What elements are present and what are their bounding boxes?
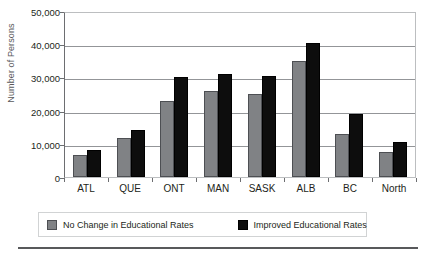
legend-swatch-icon-improved <box>238 220 248 230</box>
bar <box>379 152 393 177</box>
y-axis-tick-label: 50,000 <box>14 7 60 18</box>
x-axis-tick-mark <box>328 178 329 182</box>
legend-entry-no-change: No Change in Educational Rates <box>47 220 194 230</box>
y-axis-tick-label: 20,000 <box>14 106 60 117</box>
y-axis-tick-label: 40,000 <box>14 40 60 51</box>
bar <box>117 138 131 177</box>
bar-group <box>240 13 284 177</box>
bar <box>306 43 320 177</box>
bar <box>87 150 101 177</box>
legend-label-no-change: No Change in Educational Rates <box>63 220 194 230</box>
chart-legend: No Change in Educational Rates Improved … <box>38 212 367 237</box>
bar <box>131 130 145 177</box>
bar-group <box>328 13 372 177</box>
x-axis-category-label: QUE <box>108 183 152 199</box>
x-axis-category-labels: ATLQUEONTMANSASKALBBCNorth <box>64 183 416 199</box>
bar-group <box>65 13 109 177</box>
bar <box>248 94 262 177</box>
bar <box>160 101 174 177</box>
x-axis-tick-mark <box>196 178 197 182</box>
legend-swatch-icon-no-change <box>47 220 57 230</box>
bar <box>73 155 87 177</box>
bar-group <box>196 13 240 177</box>
bar-chart-figure: Number of Persons 010,00020,00030,00040,… <box>0 0 435 261</box>
bar-group <box>109 13 153 177</box>
x-axis-category-label: MAN <box>196 183 240 199</box>
y-axis-tick-label: 10,000 <box>14 139 60 150</box>
bar <box>335 134 349 177</box>
legend-label-improved: Improved Educational Rates <box>254 220 367 230</box>
x-axis-category-label: BC <box>328 183 372 199</box>
bar <box>174 77 188 177</box>
bar-group <box>371 13 415 177</box>
bar <box>218 74 232 177</box>
x-axis-tick-mark <box>240 178 241 182</box>
x-axis-tick-mark <box>416 178 417 182</box>
y-axis-tick-label: 0 <box>14 173 60 184</box>
legend-entry-improved: Improved Educational Rates <box>238 220 367 230</box>
plot-area <box>64 12 416 178</box>
x-axis-category-label: SASK <box>240 183 284 199</box>
x-axis-tick-mark <box>152 178 153 182</box>
bar <box>393 142 407 177</box>
bottom-divider-rule <box>18 247 418 249</box>
x-axis-tick-marks <box>64 178 416 182</box>
bar <box>262 76 276 177</box>
x-axis-tick-mark <box>108 178 109 182</box>
x-axis-tick-mark <box>372 178 373 182</box>
x-axis-tick-mark <box>64 178 65 182</box>
x-axis-category-label: ALB <box>284 183 328 199</box>
bar <box>349 114 363 177</box>
bars-layer <box>65 13 415 177</box>
x-axis-category-label: ATL <box>64 183 108 199</box>
bar <box>204 91 218 177</box>
bar <box>292 61 306 177</box>
bar-group <box>284 13 328 177</box>
x-axis-category-label: North <box>372 183 416 199</box>
y-axis-tick-labels: 010,00020,00030,00040,00050,000 <box>14 12 60 178</box>
x-axis-category-label: ONT <box>152 183 196 199</box>
bar-group <box>153 13 197 177</box>
y-axis-tick-label: 30,000 <box>14 73 60 84</box>
x-axis-tick-mark <box>284 178 285 182</box>
